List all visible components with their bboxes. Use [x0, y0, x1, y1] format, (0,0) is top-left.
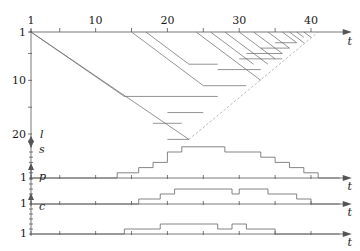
subpanel-y-tick-label: 1 — [20, 197, 27, 210]
main-y-tick-label: 20 — [12, 128, 26, 141]
cascade-diagonal — [211, 32, 254, 64]
cascade-diagonal — [146, 32, 189, 64]
main-y-tick-label: 10 — [12, 74, 26, 87]
cascade-diagonal — [31, 32, 124, 96]
figure-container: t110203040l11020t1st1pt1c — [0, 0, 360, 251]
subpanel-series-label: p — [39, 170, 46, 183]
main-y-axis-label: l — [40, 128, 44, 141]
figure-svg: t110203040l11020t1st1pt1c — [0, 0, 360, 251]
cascade-diagonal — [132, 32, 204, 86]
cascade-diagonal — [289, 32, 303, 43]
cascade-diagonal — [196, 32, 261, 80]
subpanel-series-label: s — [39, 143, 45, 156]
subpanel-x-axis-label: t — [348, 180, 353, 193]
cascade-diagonal — [304, 32, 311, 37]
cascade-diagonal — [239, 32, 275, 59]
cascade-diagonal — [297, 32, 304, 37]
subpanel-series-label: c — [39, 200, 45, 213]
cascade-diagonal — [268, 32, 290, 48]
subpanel-y-tick-label: 1 — [20, 171, 27, 184]
main-x-axis-label: t — [348, 35, 353, 48]
subpanel-step-curve — [31, 147, 340, 178]
main-x-tick-label: 40 — [304, 14, 318, 27]
cascade-diagonal — [282, 32, 296, 43]
main-x-tick-label: 30 — [232, 14, 246, 27]
main-x-tick-label: 10 — [89, 14, 103, 27]
subpanel-step-curve — [31, 224, 340, 234]
subpanel-x-axis-label: t — [348, 206, 353, 219]
subpanel-y-axis-arrow — [28, 136, 34, 143]
main-x-tick-label: 1 — [28, 14, 35, 27]
subpanel-y-tick-label: 1 — [20, 227, 27, 240]
main-y-tick-label: 1 — [19, 26, 26, 39]
main-x-tick-label: 20 — [160, 14, 174, 27]
subpanel-y-axis-arrow — [28, 163, 34, 170]
subpanel-step-curve — [31, 189, 340, 204]
subpanel-y-axis-arrow — [28, 193, 34, 200]
subpanel-x-axis-label: t — [348, 236, 353, 249]
